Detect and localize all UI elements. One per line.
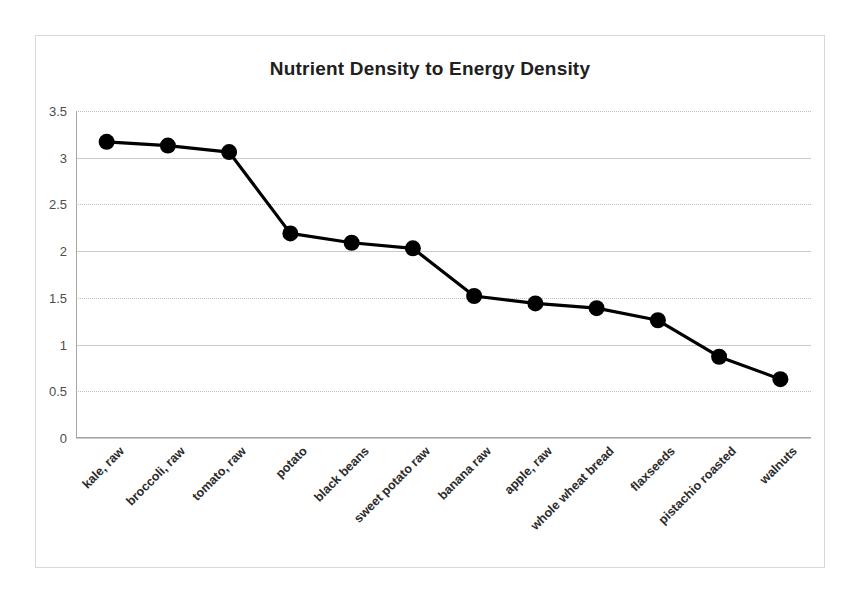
y-tick-label: 1.5 (49, 290, 67, 305)
data-point-marker (282, 225, 298, 241)
data-point-marker (344, 235, 360, 251)
data-point-marker (711, 349, 727, 365)
y-tick-label: 3.5 (49, 104, 67, 119)
data-point-marker (160, 138, 176, 154)
data-point-marker (221, 144, 237, 160)
x-axis-tick-labels: kale, rawbroccoli, rawtomato, rawpotatob… (76, 444, 811, 564)
chart-title: Nutrient Density to Energy Density (36, 58, 824, 80)
y-tick-label: 3 (60, 150, 67, 165)
y-tick-label: 2 (60, 244, 67, 259)
plot-area: 00.511.522.533.5 (76, 111, 811, 438)
data-point-marker (99, 134, 115, 150)
x-tick-label: broccoli, raw (123, 444, 187, 508)
gridline (76, 438, 811, 439)
data-point-marker (650, 312, 666, 328)
x-tick-label: banana raw (435, 444, 494, 503)
data-point-marker (589, 300, 605, 316)
x-tick-label: kale, raw (79, 444, 126, 491)
x-tick-label: flaxseeds (628, 444, 678, 494)
x-tick-label: black beans (311, 444, 372, 505)
chart-figure: Nutrient Density to Energy Density 00.51… (35, 35, 825, 568)
x-tick-label: walnuts (757, 444, 800, 487)
y-tick-label: 1 (60, 337, 67, 352)
data-point-marker (466, 288, 482, 304)
series-line (107, 142, 781, 379)
x-tick-label: apple, raw (502, 444, 555, 497)
data-series-line (76, 111, 811, 438)
x-tick-label: potato (273, 444, 310, 481)
x-tick-label: tomato, raw (190, 444, 250, 504)
y-tick-label: 2.5 (49, 197, 67, 212)
data-point-marker (405, 240, 421, 256)
data-point-marker (772, 371, 788, 387)
data-point-marker (527, 295, 543, 311)
y-tick-label: 0 (60, 431, 67, 446)
y-tick-label: 0.5 (49, 384, 67, 399)
